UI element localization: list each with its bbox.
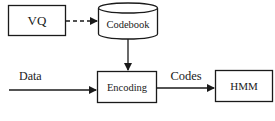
hmm-node: HMM [216,71,273,102]
encoding-node: Encoding [98,72,157,103]
vq-label: VQ [28,13,47,28]
codes-edge-label: Codes [170,69,201,83]
hmm-label: HMM [230,80,258,92]
vq-node: VQ [9,6,66,36]
diagram-canvas: VQ Codebook Data Encoding Codes HMM [0,0,275,121]
data-edge-label: Data [19,69,42,83]
codebook-label: Codebook [106,19,150,30]
encoding-label: Encoding [107,82,148,93]
codebook-node: Codebook [99,3,158,39]
